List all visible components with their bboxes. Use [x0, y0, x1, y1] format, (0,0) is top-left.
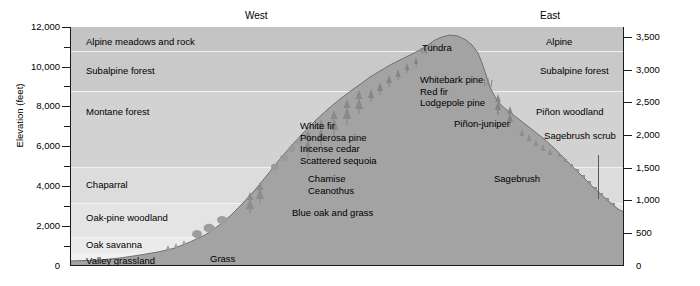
left-tick-11000	[64, 47, 70, 48]
right-tick-2000	[624, 135, 632, 136]
right-tick-label-2500: 2,500	[636, 97, 692, 107]
zone-label-pinon-woodland: Piñon woodland	[536, 106, 604, 118]
sagebrush-scrub-leader	[598, 155, 599, 199]
left-tick-4000	[62, 186, 70, 187]
left-tick-5000	[64, 166, 70, 167]
zone-label-sagebrush-scrub: Sagebrush scrub	[542, 130, 618, 142]
zone-label-alpine-east: Alpine	[546, 36, 572, 48]
left-tick-1000	[64, 246, 70, 247]
zone-label-oak-savanna: Oak savanna	[86, 239, 142, 251]
left-tick-label-6000: 6,000	[4, 141, 60, 151]
species-label-grass: Grass	[210, 253, 235, 265]
plot-area: Alpine meadows and rock Subalpine forest…	[70, 27, 624, 266]
left-tick-10000	[62, 67, 70, 68]
species-label-blue-oak-and-grass: Blue oak and grass	[292, 207, 373, 219]
right-tick-label-2000: 2,000	[636, 130, 692, 140]
left-tick-8000	[62, 106, 70, 107]
left-tick-12000	[62, 27, 70, 28]
right-tick-label-1500: 1,500	[636, 163, 692, 173]
left-tick-label-4000: 4,000	[4, 181, 60, 191]
right-tick-1000	[624, 200, 632, 201]
left-tick-label-0: 0	[4, 261, 60, 271]
left-axis-title: Elevation (feet)	[14, 56, 25, 176]
right-tick-3000	[624, 70, 632, 71]
elevation-zonation-figure: West East Elevation (feet) Elevation (me…	[0, 0, 700, 286]
zone-label-alpine-meadows-and-rock: Alpine meadows and rock	[86, 36, 195, 48]
right-tick-label-1000: 1,000	[636, 195, 692, 205]
zone-label-montane-forest: Montane forest	[86, 106, 149, 118]
right-tick-label-500: 500	[636, 228, 692, 238]
zone-label-subalpine-forest-west: Subalpine forest	[86, 65, 155, 77]
right-tick-2500	[624, 102, 632, 103]
zone-label-chaparral: Chaparral	[86, 179, 128, 191]
zone-label-oak-pine-woodland: Oak-pine woodland	[86, 212, 168, 224]
compass-label-west: West	[245, 10, 268, 21]
right-tick-label-3500: 3,500	[636, 32, 692, 42]
left-tick-3000	[64, 206, 70, 207]
species-label-sagebrush: Sagebrush	[494, 173, 540, 185]
right-tick-1500	[624, 168, 632, 169]
left-tick-6000	[62, 146, 70, 147]
right-tick-500	[624, 233, 632, 234]
species-label-white-fir-group: White fir Ponderosa pine Incense cedar S…	[300, 120, 377, 166]
left-tick-label-8000: 8,000	[4, 101, 60, 111]
species-label-whitebark-pine-group: Whitebark pine Red fir Lodgepole pine	[420, 74, 485, 109]
left-tick-label-10000: 10,000	[4, 62, 60, 72]
species-label-tundra: Tundra	[422, 42, 452, 54]
left-tick-label-2000: 2,000	[4, 221, 60, 231]
left-tick-9000	[64, 86, 70, 87]
left-tick-2000	[62, 226, 70, 227]
left-tick-7000	[64, 126, 70, 127]
species-label-pinon-juniper: Piñon-juniper	[454, 118, 510, 130]
left-tick-label-12000: 12,000	[4, 22, 60, 32]
compass-label-east: East	[540, 10, 560, 21]
zone-label-valley-grassland: Valley grassland	[86, 255, 155, 266]
zone-label-subalpine-forest-east: Subalpine forest	[540, 65, 609, 77]
right-tick-3500	[624, 37, 632, 38]
right-tick-label-3000: 3,000	[636, 65, 692, 75]
species-label-chamise-ceanothus: Chamise Ceanothus	[308, 173, 354, 196]
right-tick-label-0: 0	[636, 261, 692, 271]
